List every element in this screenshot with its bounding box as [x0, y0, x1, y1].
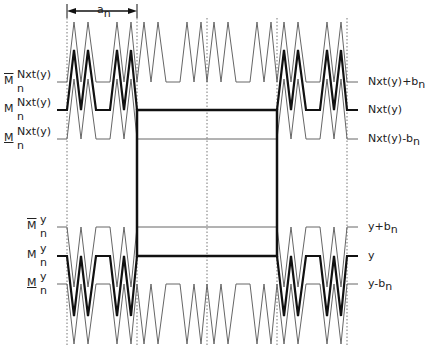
right-label-y-plus-b: y+bn — [368, 221, 398, 232]
label-superscript: y — [40, 243, 47, 254]
right-label-nxt-minus-b: Nxt(y)-bn — [368, 133, 420, 144]
label-subscript: n — [385, 280, 392, 293]
label-text: Nxt(y)-b — [368, 132, 413, 145]
label-subscript: n — [40, 285, 47, 296]
label-subscript: n — [391, 223, 398, 236]
label-subscript: n — [17, 140, 24, 151]
diagram-canvas — [0, 0, 426, 349]
left-label-mbar-nxt: MNxt(y)n — [4, 75, 14, 86]
label-base: M — [27, 219, 37, 232]
label-superscript: y — [40, 214, 47, 225]
left-label-m-y: Myn — [27, 249, 37, 260]
label-text: y-b — [368, 277, 385, 290]
label-base: M — [27, 248, 37, 261]
dotted-guides — [67, 18, 347, 345]
label-text: y — [368, 249, 375, 262]
label-base: M — [4, 102, 14, 115]
label-superscript: Nxt(y) — [17, 126, 51, 137]
label-text: Nxt(y)+b — [368, 75, 418, 88]
label-subscript: n — [40, 228, 47, 239]
label-base: M — [27, 276, 37, 289]
label-base: M — [4, 74, 14, 87]
right-label-y: y — [368, 250, 375, 261]
width-marker-label: an — [97, 3, 111, 16]
left-label-m-nxt: MNxt(y)n — [4, 103, 14, 114]
label-superscript: y — [40, 271, 47, 282]
label-text: Nxt(y) — [368, 103, 402, 116]
label-subscript: n — [17, 111, 24, 122]
right-label-y-minus-b: y-bn — [368, 278, 392, 289]
label-subscript: n — [40, 257, 47, 268]
left-label-munder-y: Myn — [27, 277, 37, 288]
label-subscript: n — [418, 78, 425, 91]
label-base: M — [4, 131, 14, 144]
label-subscript: n — [17, 83, 24, 94]
left-label-munder-nxt: MNxt(y)n — [4, 132, 14, 143]
label-subscript: n — [413, 135, 420, 148]
right-label-nxt-plus-b: Nxt(y)+bn — [368, 76, 425, 87]
right-label-nxt: Nxt(y) — [368, 104, 402, 115]
label-superscript: Nxt(y) — [17, 97, 51, 108]
label-text: y+b — [368, 220, 391, 233]
left-label-mbar-y: Myn — [27, 220, 37, 231]
label-superscript: Nxt(y) — [17, 69, 51, 80]
